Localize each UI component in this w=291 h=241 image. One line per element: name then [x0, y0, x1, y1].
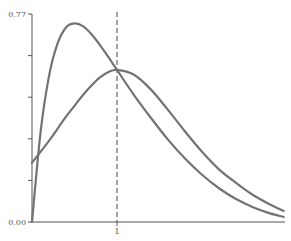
y-max-label: 0.77 — [8, 10, 26, 19]
x-tick-label-1: 1 — [114, 227, 119, 236]
y-min-label: 0.00 — [8, 218, 26, 227]
axes — [28, 12, 285, 226]
series-group — [32, 23, 284, 222]
chart: 0.77 0.00 1 — [0, 0, 291, 241]
curve-tall — [32, 23, 284, 222]
curve-wide — [32, 70, 284, 211]
